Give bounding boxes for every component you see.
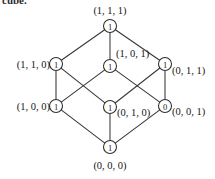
vertex-label: (1, 1, 0): [17, 59, 50, 70]
vertex-label: (0, 0, 1): [172, 106, 205, 117]
cube-vertex[interactable]: 1: [159, 58, 172, 71]
cube-vertex[interactable]: 1: [104, 101, 117, 114]
cube-edge: [61, 110, 105, 143]
vertex-value: 1: [108, 103, 112, 113]
cube-diagram: 11111101: [0, 0, 215, 179]
cube-vertex[interactable]: 1: [104, 20, 117, 33]
vertex-label: (0, 1, 1): [172, 65, 205, 76]
vertex-label: (0, 1, 0): [117, 107, 150, 118]
cube-vertex[interactable]: 1: [104, 141, 117, 154]
vertex-value: 0: [163, 102, 167, 112]
figure-canvas: cube. 11111101 (1, 1, 1)(1, 1, 0)(1, 0, …: [0, 0, 215, 179]
cube-vertex[interactable]: 0: [159, 100, 172, 113]
cube-vertex[interactable]: 1: [50, 58, 63, 71]
vertex-value: 1: [163, 60, 167, 70]
vertex-label: (1, 0, 1): [116, 48, 149, 59]
vertex-value: 1: [54, 102, 58, 112]
cube-vertex[interactable]: 1: [50, 100, 63, 113]
vertex-label: (1, 1, 1): [93, 5, 126, 16]
vertex-label: (0, 0, 0): [93, 160, 126, 171]
vertex-value: 1: [108, 143, 112, 153]
vertex-value: 1: [54, 60, 58, 70]
cube-edge: [61, 30, 104, 61]
vertex-label: (1, 0, 0): [17, 101, 50, 112]
vertex-value: 1: [108, 22, 112, 32]
cube-vertex[interactable]: 1: [104, 60, 117, 73]
vertex-value: 1: [108, 62, 112, 72]
